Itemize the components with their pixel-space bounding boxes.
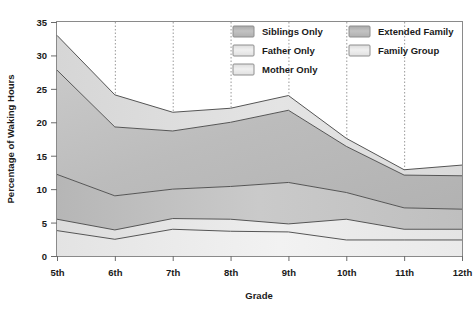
legend-swatch-mother-only	[233, 64, 254, 75]
legend-label-mother-only: Mother Only	[262, 64, 318, 75]
legend-swatch-family-group	[349, 45, 370, 56]
x-tick-label-9th: 9th	[282, 267, 296, 278]
y-tick-label-5: 5	[42, 218, 48, 229]
y-tick-label-20: 20	[36, 117, 47, 128]
legend-item-mother-only[interactable]: Mother Only	[233, 64, 318, 75]
chart-canvas: 05101520253035 5th6th7th8th9th10th11th12…	[0, 0, 473, 311]
legend-swatch-extended-family	[349, 26, 370, 37]
x-tick-label-6th: 6th	[108, 267, 122, 278]
legend-swatch-siblings-only	[233, 26, 254, 37]
y-axis-title: Percentage of Waking Hours	[5, 75, 16, 204]
stacked-area-chart: 05101520253035 5th6th7th8th9th10th11th12…	[0, 0, 473, 311]
x-tick-label-8th: 8th	[224, 267, 238, 278]
legend-item-father-only[interactable]: Father Only	[233, 45, 316, 56]
x-tick-label-7th: 7th	[166, 267, 180, 278]
legend-item-extended-family[interactable]: Extended Family	[349, 26, 454, 37]
y-tick-label-15: 15	[36, 151, 47, 162]
legend-label-siblings-only: Siblings Only	[262, 26, 323, 37]
x-tick-label-5th: 5th	[50, 267, 64, 278]
legend-label-extended-family: Extended Family	[378, 26, 454, 37]
legend-label-father-only: Father Only	[262, 45, 316, 56]
y-tick-label-0: 0	[42, 251, 47, 262]
x-tick-label-12th: 12th	[453, 267, 473, 278]
y-tick-label-30: 30	[36, 50, 47, 61]
legend-item-family-group[interactable]: Family Group	[349, 45, 439, 56]
y-tick-label-25: 25	[36, 84, 47, 95]
y-tick-label-35: 35	[36, 17, 47, 28]
y-tick-label-10: 10	[36, 184, 47, 195]
legend-item-siblings-only[interactable]: Siblings Only	[233, 26, 323, 37]
legend-swatch-father-only	[233, 45, 254, 56]
legend-label-family-group: Family Group	[378, 45, 439, 56]
x-axis-title: Grade	[245, 290, 272, 301]
x-tick-label-11th: 11th	[395, 267, 414, 278]
x-tick-label-10th: 10th	[337, 267, 357, 278]
